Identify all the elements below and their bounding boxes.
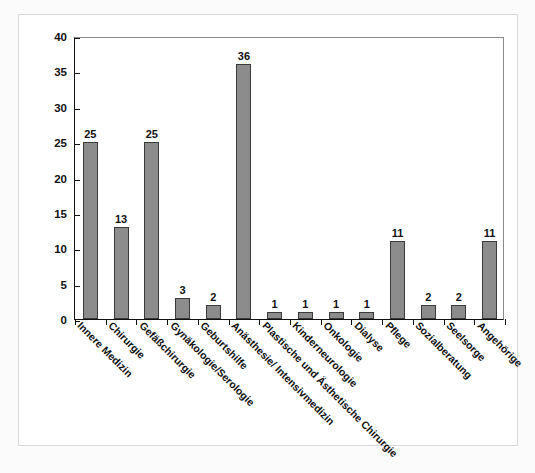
x-axis-category-label: Pflege — [383, 320, 413, 350]
plot-area: 0510152025303540 25132532361111112211 — [74, 37, 504, 320]
y-axis-tick-label: 15 — [54, 209, 67, 221]
bar-value-label: 11 — [392, 228, 404, 239]
chart-screenshot: 0510152025303540 25132532361111112211 In… — [0, 0, 535, 473]
bar: 11 — [482, 241, 497, 319]
bar: 11 — [390, 241, 405, 319]
bar-value-label: 2 — [456, 292, 462, 303]
bar-value-label: 2 — [425, 292, 431, 303]
y-axis-tick — [75, 109, 80, 110]
x-axis-category-label: Angehörige — [475, 320, 524, 369]
y-axis-tick-label: 35 — [54, 68, 67, 80]
bar: 1 — [267, 312, 282, 319]
bar-value-label: 1 — [302, 299, 308, 310]
bar: 2 — [206, 305, 221, 319]
y-axis-tick — [75, 73, 80, 74]
x-axis-category-label: Sozialberatung — [414, 320, 475, 381]
bar: 3 — [175, 298, 190, 319]
y-axis-tick — [75, 250, 80, 251]
bar-value-label: 2 — [210, 292, 216, 303]
bar-value-label: 25 — [84, 129, 96, 140]
y-axis-tick-label: 30 — [54, 103, 67, 115]
y-axis-tick — [75, 38, 80, 39]
bar-value-label: 3 — [179, 285, 185, 296]
y-axis-tick — [75, 215, 80, 216]
bar: 36 — [236, 64, 251, 319]
bar: 1 — [298, 312, 313, 319]
bar: 25 — [144, 142, 159, 319]
y-axis-tick-label: 25 — [54, 138, 67, 150]
x-axis-category-label: Innere Medizin — [76, 320, 135, 379]
y-axis-tick-label: 10 — [54, 245, 67, 257]
y-axis-tick — [75, 286, 80, 287]
bar: 25 — [83, 142, 98, 319]
bar-value-label: 13 — [115, 214, 127, 225]
y-axis-tick-label: 5 — [61, 280, 67, 292]
x-axis-category-labels: Innere MedizinChirurgieGefäßchirurgieGyn… — [74, 320, 504, 450]
x-axis-tick — [505, 319, 506, 325]
bar-value-label: 25 — [146, 129, 158, 140]
bar-value-label: 1 — [272, 299, 278, 310]
bar: 2 — [421, 305, 436, 319]
chart-panel: 0510152025303540 25132532361111112211 In… — [18, 14, 518, 446]
bar: 2 — [451, 305, 466, 319]
bar-value-label: 36 — [238, 51, 250, 62]
y-axis-tick — [75, 144, 80, 145]
bar-value-label: 11 — [484, 228, 496, 239]
bar-value-label: 1 — [333, 299, 339, 310]
bar: 13 — [114, 227, 129, 319]
y-axis-tick-label: 20 — [54, 174, 67, 186]
bar-value-label: 1 — [364, 299, 370, 310]
bar: 1 — [359, 312, 374, 319]
y-axis-tick-label: 40 — [54, 32, 67, 44]
y-axis-tick — [75, 180, 80, 181]
bar: 1 — [329, 312, 344, 319]
y-axis-tick-label: 0 — [61, 315, 67, 327]
